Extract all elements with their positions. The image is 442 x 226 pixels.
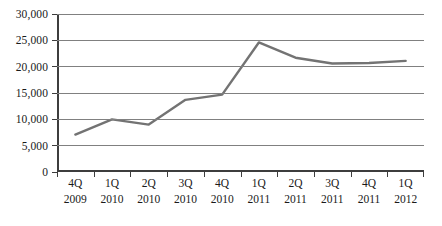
x-axis-quarter-label: 2Q: [137, 176, 160, 192]
y-axis-tick-label: 15,000: [16, 87, 48, 99]
gridline: [57, 145, 424, 146]
x-axis-tick-label: 1Q2012: [394, 176, 417, 207]
y-axis-tick: [52, 119, 57, 120]
x-axis-tick-label: 1Q2011: [248, 176, 271, 207]
x-axis-labels: 4Q20091Q20102Q20103Q20104Q20101Q20112Q20…: [57, 176, 424, 222]
y-axis-tick: [52, 66, 57, 67]
y-axis-tick-label: 20,000: [16, 61, 48, 73]
x-axis-tick-label: 2Q2010: [137, 176, 160, 207]
x-axis-quarter-label: 3Q: [174, 176, 197, 192]
x-axis-year-label: 2011: [321, 192, 344, 208]
gridline: [57, 66, 424, 67]
x-axis-year-label: 2011: [248, 192, 271, 208]
gridline: [57, 14, 424, 15]
y-axis-tick-label: 25,000: [16, 34, 48, 46]
y-axis-tick-label: 30,000: [16, 8, 48, 20]
x-axis-quarter-label: 4Q: [358, 176, 381, 192]
y-axis-tick: [52, 145, 57, 146]
x-axis-tick-label: 1Q2010: [101, 176, 124, 207]
x-axis-quarter-label: 3Q: [321, 176, 344, 192]
gridline: [57, 119, 424, 120]
gridline: [57, 93, 424, 94]
y-axis-tick: [52, 40, 57, 41]
line-chart: 05,00010,00015,00020,00025,00030,000 4Q2…: [0, 0, 442, 226]
x-axis-quarter-label: 4Q: [211, 176, 234, 192]
x-axis-tick-label: 4Q2010: [211, 176, 234, 207]
x-axis-quarter-label: 4Q: [64, 176, 87, 192]
x-axis-tick-label: 4Q2009: [64, 176, 87, 207]
x-axis-year-label: 2010: [174, 192, 197, 208]
x-axis-quarter-label: 2Q: [284, 176, 307, 192]
x-axis-year-label: 2012: [394, 192, 417, 208]
x-axis-quarter-label: 1Q: [101, 176, 124, 192]
x-axis-year-label: 2011: [284, 192, 307, 208]
x-axis-year-label: 2009: [64, 192, 87, 208]
x-axis-quarter-label: 1Q: [248, 176, 271, 192]
x-axis-year-label: 2010: [211, 192, 234, 208]
y-axis-tick: [52, 14, 57, 15]
y-axis-tick-label: 0: [42, 166, 48, 178]
x-axis-year-label: 2010: [101, 192, 124, 208]
x-axis-tick-label: 3Q2011: [321, 176, 344, 207]
x-axis-year-label: 2011: [358, 192, 381, 208]
x-axis-tick-label: 4Q2011: [358, 176, 381, 207]
y-axis-tick-label: 5,000: [22, 140, 48, 152]
y-axis-tick-label: 10,000: [16, 113, 48, 125]
gridline: [57, 40, 424, 41]
y-axis-tick: [52, 93, 57, 94]
x-axis-quarter-label: 1Q: [394, 176, 417, 192]
plot-area: [57, 14, 424, 172]
x-axis-tick-label: 3Q2010: [174, 176, 197, 207]
x-axis-tick-label: 2Q2011: [284, 176, 307, 207]
y-axis-labels: 05,00010,00015,00020,00025,00030,000: [0, 0, 52, 226]
x-axis-year-label: 2010: [137, 192, 160, 208]
